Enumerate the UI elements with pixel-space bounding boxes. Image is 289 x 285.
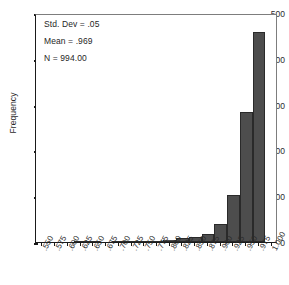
histogram-screenshot: Frequency 0100200300400500 .550.575.600.… bbox=[0, 0, 289, 285]
mean-label: Mean = .969 bbox=[44, 36, 100, 46]
x-axis-tick-labels: .550.575.600.625.650.675.700.725.750.775… bbox=[0, 243, 289, 285]
histogram-bar bbox=[253, 32, 266, 242]
statistics-annotation: Std. Dev = .05 Mean = .969 N = 994.00 bbox=[44, 19, 100, 63]
n-label: N = 994.00 bbox=[44, 53, 100, 63]
histogram-bar bbox=[240, 112, 253, 242]
std-dev-label: Std. Dev = .05 bbox=[44, 19, 100, 29]
